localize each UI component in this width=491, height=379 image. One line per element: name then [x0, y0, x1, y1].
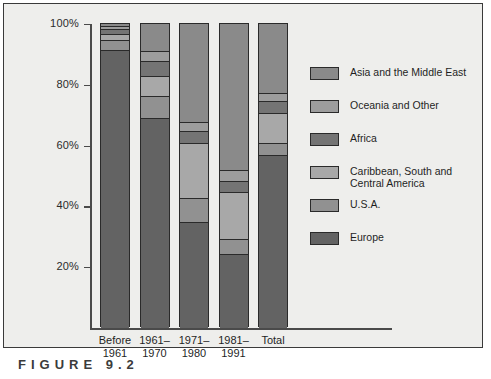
- bar-segment: [101, 51, 129, 328]
- bar-segment: [220, 182, 248, 193]
- bar-2[interactable]: [140, 23, 170, 327]
- legend-label: Oceania and Other: [350, 99, 439, 111]
- x-axis-label-line: Total: [245, 334, 301, 347]
- legend-item-5[interactable]: U.S.A.: [310, 198, 478, 222]
- bar-segment: [180, 24, 208, 123]
- bar-segment: [259, 156, 287, 328]
- bar-segment: [141, 77, 169, 97]
- x-axis-label-5: Total: [245, 334, 301, 347]
- bar-segment: [220, 193, 248, 241]
- bar-segment: [101, 41, 129, 52]
- bar-segment: [180, 123, 208, 132]
- bar-segment: [180, 223, 208, 328]
- bar-segment: [141, 24, 169, 52]
- bar-segment: [220, 171, 248, 182]
- legend-label: Africa: [350, 132, 377, 144]
- bar-segment: [141, 52, 169, 61]
- x-axis-line: [90, 328, 392, 330]
- legend-label: Caribbean, South and Central America: [350, 165, 452, 189]
- legend-item-2[interactable]: Oceania and Other: [310, 99, 478, 123]
- chart-panel: 100%80%60%40%20% Before19611961–19701971…: [3, 3, 483, 348]
- y-axis-tick-label: 100%: [50, 17, 84, 29]
- legend-swatch: [310, 67, 339, 80]
- figure-caption: FIGURE 9.2: [18, 357, 139, 373]
- legend-label: Europe: [350, 231, 384, 243]
- bar-segment: [180, 199, 208, 223]
- legend-label: Asia and the Middle East: [350, 66, 466, 78]
- legend-swatch: [310, 232, 339, 245]
- legend-swatch: [310, 133, 339, 146]
- bar-5[interactable]: [258, 23, 288, 327]
- bar-segment: [141, 97, 169, 119]
- bar-4[interactable]: [219, 23, 249, 327]
- bar-segment: [180, 144, 208, 199]
- bar-1[interactable]: [100, 23, 130, 327]
- legend-swatch: [310, 166, 339, 179]
- y-axis-tick-label: 60%: [56, 139, 84, 151]
- y-axis-tick-label: 40%: [56, 199, 84, 211]
- bar-3[interactable]: [179, 23, 209, 327]
- bar-segment: [259, 94, 287, 102]
- bar-segment: [259, 24, 287, 94]
- bar-segment: [180, 132, 208, 144]
- figure-root: 100%80%60%40%20% Before19611961–19701971…: [0, 0, 491, 379]
- bar-segment: [259, 144, 287, 156]
- legend-swatch: [310, 199, 339, 212]
- legend-label: U.S.A.: [350, 198, 380, 210]
- bar-segment: [220, 240, 248, 255]
- bar-segment: [220, 24, 248, 171]
- y-axis-tick-label: 80%: [56, 78, 84, 90]
- y-axis-tick-label: 20%: [56, 260, 84, 272]
- bar-segment: [259, 102, 287, 114]
- bar-segment: [259, 114, 287, 144]
- legend-item-4[interactable]: Caribbean, South and Central America: [310, 165, 478, 189]
- bar-segment: [141, 62, 169, 77]
- x-axis-label-line: 1991: [206, 347, 262, 360]
- legend-item-1[interactable]: Asia and the Middle East: [310, 66, 478, 90]
- bar-segment: [220, 255, 248, 328]
- legend-item-3[interactable]: Africa: [310, 132, 478, 156]
- bar-segment: [141, 119, 169, 328]
- legend-item-6[interactable]: Europe: [310, 231, 478, 255]
- legend-swatch: [310, 100, 339, 113]
- plot-area: [90, 22, 290, 327]
- chart-legend: Asia and the Middle EastOceania and Othe…: [310, 66, 478, 264]
